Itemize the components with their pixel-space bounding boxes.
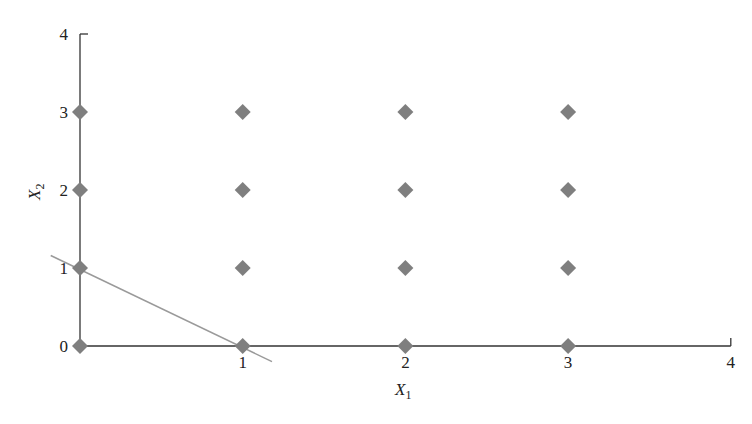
y-tick-label: 2 xyxy=(60,181,69,200)
x-tick-label: 1 xyxy=(238,353,247,372)
diamond-marker xyxy=(397,104,413,120)
diamond-marker xyxy=(397,182,413,198)
y-tick-label: 4 xyxy=(60,25,69,44)
diamond-marker xyxy=(560,260,576,276)
diamond-marker xyxy=(397,260,413,276)
tick-labels: 123401234 xyxy=(60,25,736,372)
scatter-chart: 123401234 X1 X2 xyxy=(0,0,752,424)
diamond-marker xyxy=(560,182,576,198)
x-tick-label: 2 xyxy=(401,353,410,372)
diamond-marker xyxy=(560,104,576,120)
x-tick-label: 3 xyxy=(564,353,573,372)
data-points xyxy=(72,104,576,354)
diamond-marker xyxy=(235,338,251,354)
diamond-marker xyxy=(235,260,251,276)
x-tick-label: 4 xyxy=(727,353,736,372)
y-axis-label: X2 xyxy=(25,184,47,201)
y-tick-label: 1 xyxy=(60,259,69,278)
y-tick-label: 3 xyxy=(60,103,69,122)
y-tick-label: 0 xyxy=(60,337,69,356)
diamond-marker xyxy=(235,104,251,120)
diamond-marker xyxy=(235,182,251,198)
diamond-marker xyxy=(72,182,88,198)
diamond-marker xyxy=(72,338,88,354)
diamond-marker xyxy=(397,338,413,354)
diamond-marker xyxy=(72,260,88,276)
x-axis-label: X1 xyxy=(394,380,411,402)
diamond-marker xyxy=(560,338,576,354)
diamond-marker xyxy=(72,104,88,120)
